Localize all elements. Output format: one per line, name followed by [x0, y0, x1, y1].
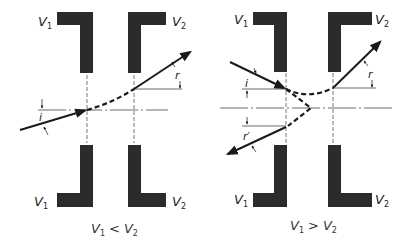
angle-label-i: i: [245, 77, 248, 90]
electrode-top-right: [128, 12, 166, 73]
caption-v1-less-v2: V1<V2: [91, 221, 138, 238]
panel-v1-less-than-v2: i r V1 V2 V1 V2 V1<V2: [20, 12, 190, 238]
angle-label-i: i: [39, 111, 42, 124]
angle-r-arrow-top: [364, 61, 368, 66]
reflected-beam-in-gap: [286, 89, 311, 126]
electrode-bottom-left: [57, 145, 93, 207]
panel-v1-greater-than-v2: i r′ r V1 V2 V1 V2 V1>V2: [220, 12, 392, 235]
label-v2-bottom: V2: [375, 192, 389, 209]
angle-i-arrow-top: [254, 68, 256, 73]
label-v2-bottom: V2: [172, 194, 186, 211]
label-v2-top: V2: [375, 12, 389, 29]
angle-label-r: r: [175, 69, 181, 82]
caption-v1-greater-v2: V1>V2: [290, 218, 337, 235]
label-v1-top: V1: [38, 14, 52, 31]
angle-label-r-prime: r′: [243, 130, 251, 143]
angle-label-r: r: [368, 68, 374, 81]
electrode-bottom-left: [253, 145, 287, 207]
label-v1-bottom: V1: [234, 192, 248, 209]
beam-path-in-gap: [87, 89, 134, 110]
label-v2-top: V2: [172, 14, 186, 31]
electrode-top-left: [253, 12, 287, 72]
electrode-bottom-right: [328, 145, 372, 207]
angle-r-prime-arrow-bottom: [252, 146, 256, 152]
refracted-beam: [134, 52, 190, 89]
electrode-bottom-right: [128, 145, 166, 207]
incident-beam: [20, 111, 85, 131]
electron-refraction-diagram: i r V1 V2 V1 V2 V1<V2: [0, 0, 412, 245]
label-v1-top: V1: [234, 12, 248, 29]
label-v1-bottom: V1: [34, 194, 48, 211]
angle-i-arrow-bottom: [44, 127, 48, 135]
electrode-top-left: [57, 12, 93, 73]
